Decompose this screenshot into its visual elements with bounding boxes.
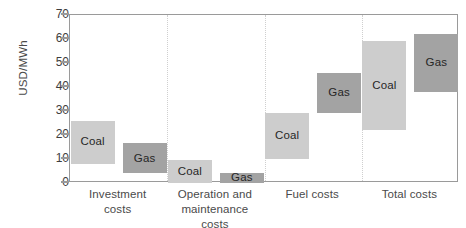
category-label-fuel-costs: Fuel costs — [264, 187, 361, 202]
bar-label: Coal — [178, 166, 202, 178]
y-tick-mark — [61, 61, 69, 62]
y-tick-mark — [61, 157, 69, 158]
bar-coal-fuel-costs[interactable]: Coal — [265, 113, 309, 159]
bar-label: Gas — [231, 172, 253, 184]
bar-label: Gas — [134, 153, 156, 165]
bar-gas-operation-and-maintenance-costs[interactable]: Gas — [220, 173, 264, 183]
category-label-line: maintenance costs — [166, 202, 263, 228]
x-axis-category-labels: InvestmentcostsOperation andmaintenance … — [69, 187, 458, 228]
bar-label: Coal — [275, 130, 299, 142]
bar-label: Coal — [372, 80, 396, 92]
bar-coal-operation-and-maintenance-costs[interactable]: Coal — [168, 160, 212, 183]
category-label-line: costs — [69, 202, 166, 217]
y-tick-mark — [61, 133, 69, 134]
category-label-investment-costs: Investmentcosts — [69, 187, 166, 217]
baseline-tick — [62, 181, 70, 182]
bar-label: Gas — [328, 87, 350, 99]
bar-coal-total-costs[interactable]: Coal — [362, 41, 406, 130]
y-axis-ticks: 010203040506070 — [0, 0, 69, 228]
bar-label: Coal — [80, 136, 104, 148]
y-tick-mark — [61, 13, 69, 14]
plot-area: CoalCoalCoalCoalGasGasGasGas — [69, 14, 458, 182]
bar-label: Gas — [426, 57, 448, 69]
group-divider — [167, 15, 168, 181]
category-label-line: Operation and — [166, 187, 263, 202]
y-tick-mark — [61, 109, 69, 110]
bar-gas-fuel-costs[interactable]: Gas — [317, 73, 361, 114]
category-label-line: Investment — [69, 187, 166, 202]
bar-gas-total-costs[interactable]: Gas — [414, 34, 458, 92]
bar-coal-investment-costs[interactable]: Coal — [71, 121, 115, 164]
category-label-line: Total costs — [361, 187, 458, 202]
category-label-operation-and-maintenance-costs: Operation andmaintenance costs — [166, 187, 263, 228]
y-tick-mark — [61, 37, 69, 38]
category-label-total-costs: Total costs — [361, 187, 458, 202]
y-tick-mark — [61, 85, 69, 86]
cost-range-chart: USD/MWh 010203040506070 CoalCoalCoalCoal… — [0, 0, 466, 228]
category-label-line: Fuel costs — [264, 187, 361, 202]
bar-gas-investment-costs[interactable]: Gas — [123, 143, 167, 173]
